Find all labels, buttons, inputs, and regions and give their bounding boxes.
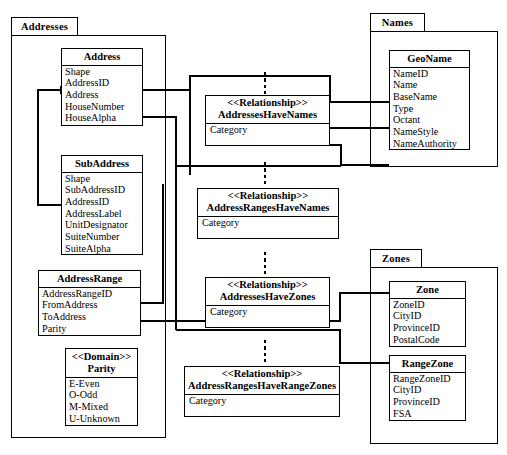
rel1-name: AddressesHaveNames (218, 109, 317, 120)
attribute: UnitDesignator (65, 219, 142, 231)
attribute: Category (188, 395, 339, 407)
attribute: RangeZoneID (393, 373, 465, 385)
class-parity-attributes: E-Even O-Odd M-Mixed U-Unknown (66, 378, 137, 425)
class-box-parity[interactable]: <<Domain>> Parity E-Even O-Odd M-Mixed U… (65, 348, 138, 426)
attribute: NameAuthority (393, 138, 469, 150)
attribute: U-Unknown (69, 413, 137, 425)
class-geoname-name: GeoName (407, 53, 451, 64)
attribute: SuiteNumber (65, 231, 142, 243)
package-zones-tab[interactable]: Zones (370, 249, 422, 268)
class-subaddress-attributes: Shape SubAddressID AddressID AddressLabe… (62, 173, 142, 255)
attribute: FromAddress (42, 299, 140, 311)
class-rangezone-attributes: RangeZoneID CityID ProvinceID FSA (390, 373, 465, 420)
rel1-stereotype: <<Relationship>> (208, 97, 327, 109)
attribute: Category (209, 306, 329, 318)
class-address-name: Address (84, 51, 121, 62)
class-box-subaddress[interactable]: SubAddress Shape SubAddressID AddressID … (61, 155, 143, 255)
rel3-attributes: Category (206, 306, 329, 318)
attribute: BaseName (393, 91, 469, 103)
class-parity-stereotype: <<Domain>> (68, 351, 135, 363)
class-subaddress-header: SubAddress (62, 156, 142, 173)
class-box-address[interactable]: Address Shape AddressID Address HouseNum… (61, 48, 143, 126)
attribute: HouseAlpha (65, 112, 142, 124)
class-box-rangezone[interactable]: RangeZone RangeZoneID CityID ProvinceID … (389, 355, 466, 421)
attribute: M-Mixed (69, 401, 137, 413)
class-box-addressrangeshaverangezones[interactable]: <<Relationship>> AddressRangesHaveRangeZ… (184, 366, 340, 417)
attribute: O-Odd (69, 389, 137, 401)
class-subaddress-name: SubAddress (75, 158, 129, 169)
attribute: AddressID (65, 196, 142, 208)
attribute: FSA (393, 408, 465, 420)
class-parity-name: Parity (88, 363, 116, 374)
class-geoname-header: GeoName (390, 51, 469, 68)
attribute: PostalCode (393, 334, 465, 346)
rel2-name: AddressRangesHaveNames (207, 202, 330, 213)
rel2-attributes: Category (198, 217, 338, 229)
rel3-stereotype: <<Relationship>> (208, 279, 327, 291)
class-box-geoname[interactable]: GeoName NameID Name BaseName Type Octant… (389, 50, 470, 150)
attribute: Shape (65, 173, 142, 185)
class-address-attributes: Shape AddressID Address HouseNumber Hous… (62, 66, 142, 125)
attribute: HouseNumber (65, 101, 142, 113)
class-box-zone[interactable]: Zone ZoneID CityID ProvinceID PostalCode (389, 281, 466, 347)
rel4-header: <<Relationship>> AddressRangesHaveRangeZ… (185, 367, 339, 395)
attribute: ProvinceID (393, 322, 465, 334)
attribute: NameStyle (393, 126, 469, 138)
attribute: CityID (393, 310, 465, 322)
attribute: AddressRangeID (42, 288, 140, 300)
attribute: CityID (393, 384, 465, 396)
rel1-attributes: Category (206, 124, 329, 136)
attribute: SuiteAlpha (65, 243, 142, 255)
rel4-stereotype: <<Relationship>> (187, 368, 337, 380)
class-box-addresseshavezones[interactable]: <<Relationship>> AddressesHaveZones Cate… (205, 277, 330, 328)
attribute: SubAddressID (65, 184, 142, 196)
attribute: ProvinceID (393, 396, 465, 408)
class-box-addressrangeshavenames[interactable]: <<Relationship>> AddressRangesHaveNames … (197, 188, 339, 239)
attribute: Name (393, 79, 469, 91)
class-box-addressrange[interactable]: AddressRange AddressRangeID FromAddress … (38, 270, 141, 336)
rel3-name: AddressesHaveZones (220, 291, 315, 302)
class-zone-attributes: ZoneID CityID ProvinceID PostalCode (390, 299, 465, 346)
package-names-label: Names (382, 17, 413, 28)
class-geoname-attributes: NameID Name BaseName Type Octant NameSty… (390, 68, 469, 150)
attribute: Type (393, 103, 469, 115)
attribute: Parity (42, 323, 140, 335)
rel4-name: AddressRangesHaveRangeZones (188, 380, 336, 391)
diagram-canvas: Addresses Names Zones Address Shape Addr… (0, 0, 507, 455)
package-names-tab[interactable]: Names (370, 13, 425, 32)
rel2-stereotype: <<Relationship>> (200, 190, 336, 202)
rel3-header: <<Relationship>> AddressesHaveZones (206, 278, 329, 306)
class-rangezone-name: RangeZone (402, 358, 453, 369)
rel4-attributes: Category (185, 395, 339, 407)
class-zone-name: Zone (416, 284, 439, 295)
rel2-header: <<Relationship>> AddressRangesHaveNames (198, 189, 338, 217)
attribute: Address (65, 89, 142, 101)
attribute: Category (209, 124, 329, 136)
attribute: ToAddress (42, 311, 140, 323)
class-addressrange-header: AddressRange (39, 271, 140, 288)
package-zones-label: Zones (382, 253, 410, 264)
package-addresses-tab[interactable]: Addresses (11, 17, 78, 36)
class-address-header: Address (62, 49, 142, 66)
class-parity-header: <<Domain>> Parity (66, 349, 137, 378)
class-addressrange-name: AddressRange (57, 273, 122, 284)
class-addressrange-attributes: AddressRangeID FromAddress ToAddress Par… (39, 288, 140, 335)
attribute: Category (201, 217, 338, 229)
attribute: E-Even (69, 378, 137, 390)
class-zone-header: Zone (390, 282, 465, 299)
class-rangezone-header: RangeZone (390, 356, 465, 373)
attribute: ZoneID (393, 299, 465, 311)
rel1-header: <<Relationship>> AddressesHaveNames (206, 96, 329, 124)
attribute: Shape (65, 66, 142, 78)
attribute: NameID (393, 68, 469, 80)
attribute: AddressLabel (65, 208, 142, 220)
class-box-addresseshavenames[interactable]: <<Relationship>> AddressesHaveNames Cate… (205, 95, 330, 146)
package-addresses-label: Addresses (21, 21, 68, 32)
attribute: AddressID (65, 77, 142, 89)
attribute: Octant (393, 114, 469, 126)
